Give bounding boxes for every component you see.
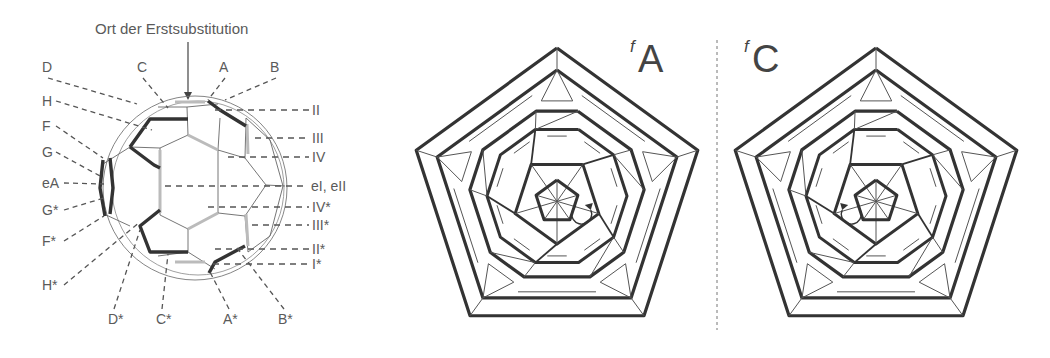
bold-bond bbox=[208, 101, 246, 126]
leader-line bbox=[64, 198, 104, 210]
position-label-left_labels-6: H* bbox=[42, 277, 58, 293]
bold-bond bbox=[140, 210, 188, 252]
position-label-left_labels-5: F* bbox=[42, 233, 57, 249]
isomer-label-fC: C bbox=[752, 38, 779, 80]
position-label-left_labels-2: G bbox=[42, 144, 53, 160]
position-label-bottom_labels-3: B* bbox=[278, 311, 293, 327]
label-leader-lines bbox=[48, 78, 309, 309]
position-label-right_labels-0: II bbox=[312, 102, 320, 118]
leader-line bbox=[64, 183, 104, 184]
leader-line bbox=[225, 78, 276, 100]
position-label-top_labels-0: D bbox=[42, 59, 52, 75]
leader-line bbox=[143, 78, 168, 108]
position-label-left_labels-3: eA bbox=[42, 175, 60, 191]
position-labels: DCABHFGeAG*F*H*IIIIIIVeI, eIIIV*III*II*I… bbox=[42, 59, 346, 327]
leader-line bbox=[64, 216, 104, 241]
arrow-head-icon bbox=[585, 203, 593, 210]
isomer-label-fA: A bbox=[638, 38, 664, 80]
position-label-right_labels-2: IV bbox=[312, 149, 326, 165]
c60-sphere-panel: Ort der Erstsubstitution DCABHFGeAG*F*H*… bbox=[42, 20, 346, 327]
position-label-left_labels-1: F bbox=[42, 118, 51, 134]
isomer-superscript-fA: f bbox=[630, 37, 637, 56]
isomer-labels: fAfC bbox=[630, 37, 779, 80]
leader-line bbox=[56, 152, 100, 176]
leader-line bbox=[64, 222, 140, 285]
position-label-right_labels-4: IV* bbox=[312, 199, 331, 215]
bold-bond bbox=[130, 119, 188, 147]
bold-bond bbox=[100, 160, 105, 216]
leader-line bbox=[237, 248, 284, 309]
leader-line bbox=[48, 78, 137, 104]
c60-sphere bbox=[100, 96, 287, 280]
position-label-bottom_labels-2: A* bbox=[223, 311, 238, 327]
position-label-left_labels-0: H bbox=[42, 93, 52, 109]
leader-line bbox=[114, 230, 140, 309]
arrow-head-icon bbox=[840, 203, 848, 210]
bold-bond bbox=[110, 158, 113, 214]
position-label-left_labels-4: G* bbox=[42, 202, 59, 218]
position-label-bottom_labels-1: C* bbox=[156, 311, 172, 327]
position-label-right_labels-6: II* bbox=[312, 241, 326, 257]
leader-line bbox=[56, 101, 152, 130]
bold-bond bbox=[130, 147, 160, 168]
fullerene-diagram-canvas: Ort der Erstsubstitution DCABHFGeAG*F*H*… bbox=[0, 0, 1050, 358]
position-label-top_labels-2: A bbox=[219, 59, 229, 75]
position-label-right_labels-7: I* bbox=[312, 256, 322, 272]
isomer-superscript-fC: f bbox=[744, 37, 751, 56]
position-label-bottom_labels-0: D* bbox=[108, 311, 124, 327]
position-label-top_labels-3: B bbox=[270, 59, 279, 75]
leader-line bbox=[208, 78, 225, 100]
position-label-right_labels-3: eI, eII bbox=[311, 178, 346, 194]
position-label-top_labels-1: C bbox=[137, 59, 147, 75]
leader-line bbox=[162, 254, 168, 309]
leader-line bbox=[56, 126, 103, 158]
leader-line bbox=[210, 272, 229, 309]
position-label-right_labels-1: III bbox=[312, 130, 324, 146]
schlegel-diagram-fA bbox=[416, 48, 698, 316]
first-substitution-title: Ort der Erstsubstitution bbox=[95, 20, 248, 37]
schlegel-diagram-fC bbox=[735, 48, 1017, 316]
position-label-right_labels-5: III* bbox=[312, 217, 330, 233]
